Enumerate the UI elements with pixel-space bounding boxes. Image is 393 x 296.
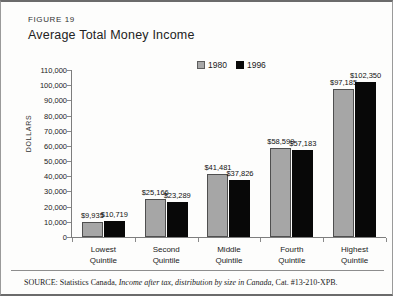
bar-group: $58,599$57,183 — [260, 70, 323, 237]
source-divider — [11, 270, 384, 271]
y-axis-tick-mark — [67, 161, 71, 162]
y-axis-tick-mark — [67, 131, 71, 132]
x-axis-tick-mark — [135, 238, 136, 242]
bar-1996-second-quintile — [167, 202, 188, 237]
source-catalogue: Cat. #13-210-XPB. — [276, 278, 338, 287]
x-axis-tick-mark — [260, 238, 261, 242]
y-axis-tick-label: 80,000 — [44, 111, 67, 120]
x-axis-category-line: Highest — [323, 245, 386, 256]
x-axis-line — [71, 237, 386, 238]
y-axis-tick-label: 100,000 — [40, 81, 67, 90]
source-prefix: SOURCE: — [24, 278, 58, 287]
bar-value-label: $57,183 — [283, 139, 322, 148]
chart-plot-area: DOLLARS 010,00020,00030,00040,00050,0006… — [1, 2, 393, 296]
y-axis-tick-mark — [67, 70, 71, 71]
x-axis-category-line: Quintile — [72, 256, 135, 267]
bar-1980-middle-quintile — [207, 174, 228, 237]
y-axis-tick-mark — [67, 222, 71, 223]
y-axis-tick-mark — [67, 85, 71, 86]
bar-1980-lowest-quintile — [82, 222, 103, 237]
bar-1996-lowest-quintile — [104, 221, 125, 237]
bar-1996-fourth-quintile — [292, 150, 313, 237]
y-axis-tick-mark — [67, 100, 71, 101]
x-axis-category-line: Middle — [198, 245, 261, 256]
x-axis-category-line: Fourth — [260, 245, 323, 256]
bar-1980-fourth-quintile — [270, 148, 291, 237]
y-axis-tick-label: 70,000 — [44, 126, 67, 135]
y-axis-tick-label: 90,000 — [44, 96, 67, 105]
bar-group: $97,185$102,350 — [323, 70, 386, 237]
x-axis-category-line: Quintile — [323, 256, 386, 267]
x-axis-category-labels: LowestQuintileSecondQuintileMiddleQuinti… — [72, 245, 386, 271]
y-axis-tick-mark — [67, 116, 71, 117]
y-axis-tick-labels: 010,00020,00030,00040,00050,00060,00070,… — [23, 70, 67, 238]
x-axis-category-line: Second — [135, 245, 198, 256]
bar-value-label: $37,826 — [220, 169, 259, 178]
source-note: SOURCE: Statistics Canada, Income after … — [24, 278, 338, 287]
x-axis-category-middle-quintile: MiddleQuintile — [198, 245, 261, 266]
y-axis-tick-label: 110,000 — [40, 66, 67, 75]
x-axis-category-line: Quintile — [198, 256, 261, 267]
y-axis-tick-label: 30,000 — [44, 187, 67, 196]
bar-1980-highest-quintile — [333, 89, 354, 237]
bar-value-label: $102,350 — [346, 71, 385, 80]
bar-value-label: $23,289 — [158, 191, 197, 200]
y-axis-tick-label: 40,000 — [44, 172, 67, 181]
y-axis-tick-label: 10,000 — [44, 217, 67, 226]
x-axis-tick-mark — [386, 238, 387, 242]
y-axis-tick-mark — [67, 176, 71, 177]
bar-group: $25,166$23,289 — [135, 70, 198, 237]
bar-value-label: $10,719 — [95, 210, 134, 219]
y-axis-tick-mark — [67, 146, 71, 147]
x-axis-category-second-quintile: SecondQuintile — [135, 245, 198, 266]
source-agency: Statistics Canada, — [60, 278, 117, 287]
y-axis-tick-label: 20,000 — [44, 202, 67, 211]
y-axis-tick-mark — [67, 191, 71, 192]
x-axis-category-line: Lowest — [72, 245, 135, 256]
y-axis-tick-label: 60,000 — [44, 141, 67, 150]
bar-group: $41,481$37,826 — [198, 70, 261, 237]
bars-container: $9,935$10,719$25,166$23,289$41,481$37,82… — [72, 70, 386, 237]
x-axis-category-line: Quintile — [260, 256, 323, 267]
x-axis-tick-mark — [72, 238, 73, 242]
x-axis-category-lowest-quintile: LowestQuintile — [72, 245, 135, 266]
y-axis-tick-mark — [67, 207, 71, 208]
x-axis-category-line: Quintile — [135, 256, 198, 267]
bar-group: $9,935$10,719 — [72, 70, 135, 237]
bar-1996-highest-quintile — [355, 82, 376, 237]
x-axis-category-fourth-quintile: FourthQuintile — [260, 245, 323, 266]
figure-frame: FIGURE 19 Average Total Money Income 198… — [0, 0, 393, 296]
x-axis-category-highest-quintile: HighestQuintile — [323, 245, 386, 266]
x-axis-tick-mark — [323, 238, 324, 242]
bar-1996-middle-quintile — [229, 180, 250, 237]
y-axis-tick-label: 50,000 — [44, 157, 67, 166]
x-axis-tick-mark — [198, 238, 199, 242]
bar-1980-second-quintile — [145, 199, 166, 237]
y-axis-tick-mark — [67, 237, 71, 238]
source-publication: Income after tax, distribution by size i… — [119, 278, 274, 287]
